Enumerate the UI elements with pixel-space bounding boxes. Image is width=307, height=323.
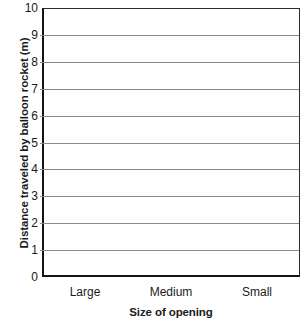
y-tick-label-3: 3	[4, 190, 38, 202]
y-tick-label-2: 2	[4, 217, 38, 229]
y-tick-label-10: 10	[4, 2, 38, 14]
x-tick-label-small: Small	[242, 285, 272, 299]
chart-title	[42, 0, 300, 2]
y-tick-label-9: 9	[4, 29, 38, 41]
balloon-rocket-bar-chart: Distance traveled by balloon rocket (m) …	[0, 0, 307, 323]
gridline-6	[40, 116, 299, 117]
gridline-7	[40, 89, 299, 90]
gridline-9	[40, 35, 299, 36]
x-axis-tick-labels: LargeMediumSmall	[42, 285, 300, 300]
x-axis-title: Size of opening	[42, 306, 300, 318]
y-tick-label-0: 0	[4, 271, 38, 283]
gridline-3	[40, 196, 299, 197]
y-tick-label-5: 5	[4, 137, 38, 149]
y-tick-label-6: 6	[4, 110, 38, 122]
y-tick-label-7: 7	[4, 83, 38, 95]
y-axis-tick-labels: 012345678910	[0, 8, 38, 277]
gridline-4	[40, 169, 299, 170]
gridline-8	[40, 62, 299, 63]
gridline-1	[40, 250, 299, 251]
y-tick-label-4: 4	[4, 163, 38, 175]
y-tick-label-1: 1	[4, 244, 38, 256]
y-tick-label-8: 8	[4, 56, 38, 68]
gridline-2	[40, 223, 299, 224]
x-tick-label-large: Large	[70, 285, 101, 299]
x-tick-label-medium: Medium	[150, 285, 193, 299]
gridline-5	[40, 143, 299, 144]
plot-area	[42, 8, 300, 277]
